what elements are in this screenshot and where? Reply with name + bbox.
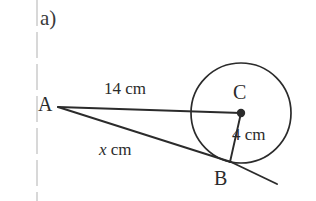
segment-AC (58, 107, 241, 113)
segment-AB (58, 107, 231, 162)
center-point-dot (237, 109, 245, 117)
tangent-line-extension (231, 162, 277, 184)
length-label-ac: 14 cm (104, 80, 146, 97)
length-label-ab-variable: x (99, 140, 107, 159)
length-label-cb: 4 cm (232, 126, 266, 143)
geometry-figure: a) A B C 14 cm x cm 4 cm (0, 0, 316, 201)
point-label-c: C (233, 82, 246, 102)
length-label-ab: x cm (99, 141, 132, 158)
point-label-a: A (38, 94, 52, 114)
length-label-ab-unit: cm (111, 140, 132, 159)
part-label: a) (40, 8, 56, 29)
point-label-b: B (214, 168, 227, 188)
